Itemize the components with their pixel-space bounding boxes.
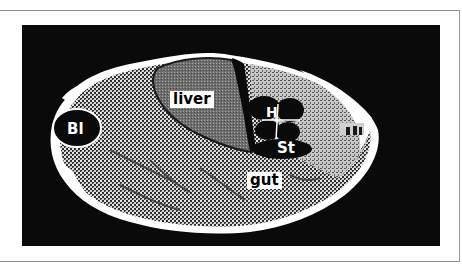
liver-label: liver [170,91,214,108]
gut-label: gut [247,172,282,189]
heart-label: H [266,105,278,119]
vertebra-region [340,123,364,135]
bladder-label: Bl [67,122,84,137]
stomach-label: St [277,141,295,156]
